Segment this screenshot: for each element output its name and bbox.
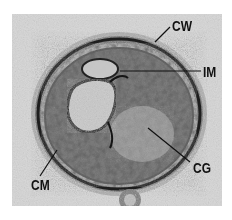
label-cell-wall: CW <box>172 18 192 33</box>
label-intracytoplasmic-membrane: IM <box>203 64 216 79</box>
label-cell-membrane: CM <box>31 177 50 192</box>
small-vesicle <box>82 59 118 79</box>
label-cytoplasmic-granules: CG <box>193 160 211 175</box>
